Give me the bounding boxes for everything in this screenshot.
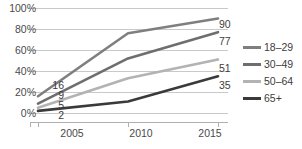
legend-swatch-icon: [243, 46, 261, 49]
legend-swatch-icon: [243, 63, 261, 66]
data-label-50-64-2015: 51: [219, 63, 231, 74]
legend-swatch-icon: [243, 80, 261, 83]
legend-label: 50–64: [264, 76, 293, 87]
legend-label: 30–49: [264, 59, 293, 70]
legend-label: 18–29: [264, 42, 293, 53]
legend-item-18-29[interactable]: 18–29: [243, 40, 302, 54]
chart-legend: 18–29 30–49 50–64 65+: [243, 40, 302, 108]
legend-swatch-icon: [243, 97, 261, 100]
line-chart: 100% 80% 60% 40% 20% 0% 2005 2010 2015 1…: [0, 0, 302, 149]
legend-item-65plus[interactable]: 65+: [243, 91, 302, 105]
data-label-30-49-2015: 77: [219, 36, 231, 47]
x-tick-label-2010: 2010: [129, 128, 152, 139]
x-tick-label-2015: 2015: [198, 128, 221, 139]
legend-item-50-64[interactable]: 50–64: [243, 74, 302, 88]
legend-label: 65+: [264, 93, 282, 104]
data-label-18-29-2015: 90: [219, 19, 231, 30]
data-label-65plus-2005: 2: [58, 110, 64, 121]
x-tick-label-2005: 2005: [60, 128, 83, 139]
data-label-65plus-2015: 35: [219, 80, 231, 91]
legend-item-30-49[interactable]: 30–49: [243, 57, 302, 71]
